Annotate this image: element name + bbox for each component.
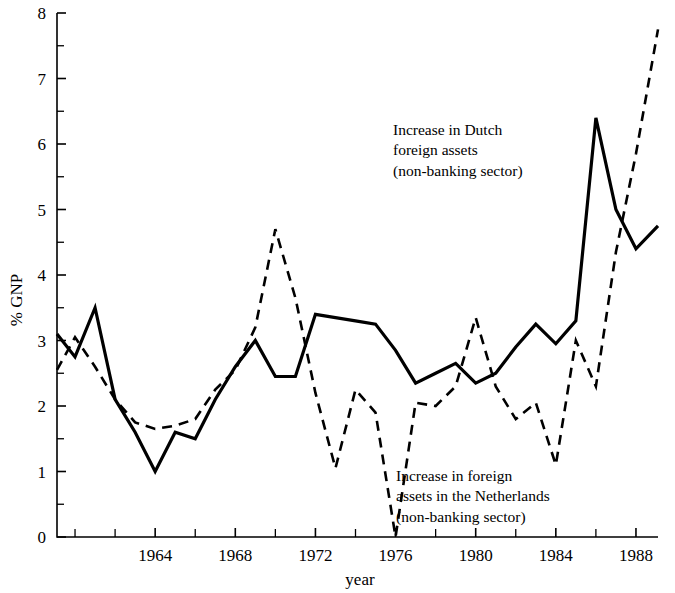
y-axis-title: % GNP	[7, 274, 26, 326]
annotation-line-3: (non-banking sector)	[396, 507, 550, 527]
annotation-line-3: (non-banking sector)	[393, 161, 523, 181]
annotation-foreign-assets-netherlands: Increase in foreign assets in the Nether…	[396, 466, 550, 527]
y-tick-label: 6	[38, 135, 47, 154]
annotation-line-1: Increase in Dutch	[393, 120, 523, 140]
y-tick-label: 8	[38, 4, 47, 23]
series-line-dutch-foreign-assets	[57, 118, 658, 472]
y-tick-label: 3	[38, 332, 47, 351]
y-axis-tick-labels: 012345678	[38, 4, 47, 547]
x-tick-label: 1988	[619, 546, 653, 565]
y-tick-label: 2	[38, 397, 47, 416]
y-tick-label: 5	[38, 201, 47, 220]
annotation-line-2: foreign assets	[393, 140, 523, 160]
annotation-line-1: Increase in foreign	[396, 466, 550, 486]
y-tick-label: 4	[38, 266, 47, 285]
x-tick-label: 1980	[459, 546, 493, 565]
tick-marks	[57, 13, 636, 537]
y-tick-label: 0	[38, 528, 47, 547]
y-tick-label: 7	[38, 70, 47, 89]
x-tick-label: 1972	[298, 546, 332, 565]
line-chart-plot: 012345678 1964196819721976198019841988 %…	[0, 0, 675, 593]
annotation-dutch-foreign-assets: Increase in Dutch foreign assets (non-ba…	[393, 120, 523, 181]
x-tick-label: 1984	[539, 546, 574, 565]
x-tick-label: 1968	[218, 546, 252, 565]
x-tick-label: 1976	[379, 546, 413, 565]
x-tick-label: 1964	[138, 546, 173, 565]
x-axis-tick-labels: 1964196819721976198019841988	[138, 546, 653, 565]
data-series-group	[57, 29, 658, 537]
x-axis-title: year	[345, 570, 375, 589]
annotation-line-2: assets in the Netherlands	[396, 486, 550, 506]
chart-container: 012345678 1964196819721976198019841988 %…	[0, 0, 675, 593]
y-tick-label: 1	[38, 463, 47, 482]
series-line-foreign-assets-netherlands	[57, 29, 658, 537]
